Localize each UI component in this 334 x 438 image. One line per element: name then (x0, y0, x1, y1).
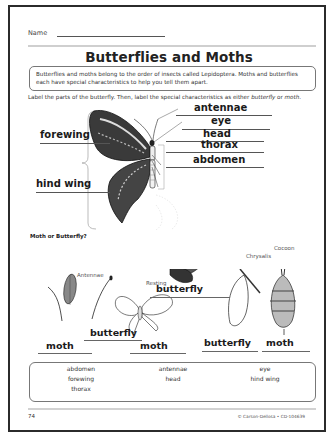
instructions-end: . (299, 94, 301, 100)
label-antennae: antennae (194, 102, 247, 113)
answer-line-chrysalis[interactable] (202, 351, 258, 352)
page-title: Butterflies and Moths (10, 49, 328, 65)
answer-line-abdomen[interactable] (166, 167, 264, 168)
label-head: head (203, 128, 231, 139)
answer-line-cocoon[interactable] (262, 351, 310, 352)
top-divider (28, 45, 316, 47)
section-heading: Moth or Butterfly? (30, 233, 87, 239)
answer-line-clubbed[interactable] (84, 340, 142, 341)
answer-line-spread[interactable] (130, 353, 186, 354)
instructions: Label the parts of the butterfly. Then, … (28, 93, 318, 101)
answer-feathery-antenna: moth (46, 340, 74, 351)
answer-cocoon: moth (266, 337, 294, 348)
word-bank-item: forewing (46, 375, 116, 382)
caption-antennae: Antennae (77, 272, 104, 278)
instructions-or: or (275, 94, 284, 100)
bottom-divider (28, 408, 316, 410)
label-thorax: thorax (201, 139, 238, 150)
answer-chrysalis: butterfly (204, 337, 251, 348)
caption-cocoon: Cocoon (274, 245, 294, 251)
answer-line-feathery[interactable] (38, 353, 92, 354)
word-bank-item: hind wing (230, 375, 300, 382)
answer-line-hind-wing[interactable] (36, 192, 110, 193)
label-abdomen: abdomen (193, 154, 245, 165)
page-number: 74 (28, 413, 35, 419)
worksheet-page: Name Butterflies and Moths Butterflies a… (8, 5, 326, 432)
instructions-moth: moth (285, 94, 300, 100)
word-bank: abdomen antennae eye forewing head hind … (29, 362, 316, 402)
answer-spread-moth: moth (140, 340, 168, 351)
word-bank-item: thorax (46, 385, 116, 392)
label-forewing: forewing (40, 129, 90, 140)
answer-line-thorax[interactable] (166, 152, 264, 153)
label-hind-wing: hind wing (36, 178, 91, 189)
word-bank-item: antennae (138, 365, 208, 372)
answer-line-forewing[interactable] (40, 143, 110, 144)
label-eye: eye (211, 115, 231, 126)
answer-clubbed-antenna: butterfly (90, 327, 137, 338)
word-bank-item: abdomen (46, 365, 116, 372)
instructions-butterfly: butterfly (251, 94, 275, 100)
word-bank-item: head (138, 375, 208, 382)
answer-resting-butterfly: butterfly (156, 283, 203, 294)
word-bank-item: eye (230, 365, 300, 372)
copyright: © Carson-Dellosa • CD-104639 (237, 414, 305, 419)
instructions-text: Label the parts of the butterfly. Then, … (28, 94, 251, 100)
name-label: Name (28, 29, 47, 37)
intro-box: Butterflies and moths belong to the orde… (29, 66, 316, 91)
caption-chrysalis: Chrysalis (246, 253, 271, 259)
answer-line-resting[interactable] (150, 297, 230, 298)
name-field-line[interactable] (57, 36, 165, 37)
